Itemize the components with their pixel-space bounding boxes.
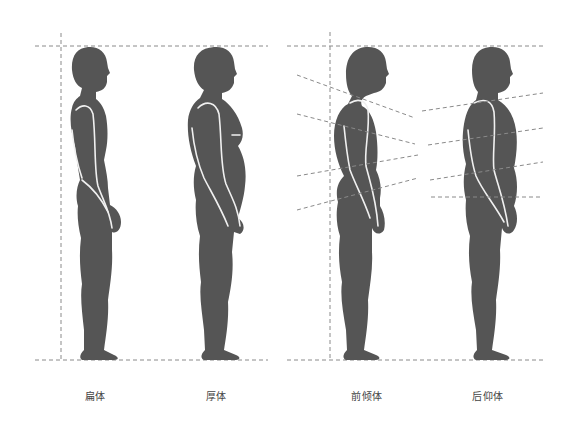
figure-forward-lean-body — [334, 47, 389, 360]
figure-backward-lean-body — [463, 47, 517, 360]
label-flat-body: 扁体 — [85, 388, 106, 403]
label-forward-lean-body: 前倾体 — [351, 388, 383, 403]
contour-lines — [72, 100, 508, 228]
figure-flat-body — [71, 47, 121, 360]
label-thick-body: 厚体 — [206, 388, 227, 403]
body-types-diagram — [0, 0, 575, 421]
label-backward-lean-body: 后仰体 — [472, 388, 504, 403]
